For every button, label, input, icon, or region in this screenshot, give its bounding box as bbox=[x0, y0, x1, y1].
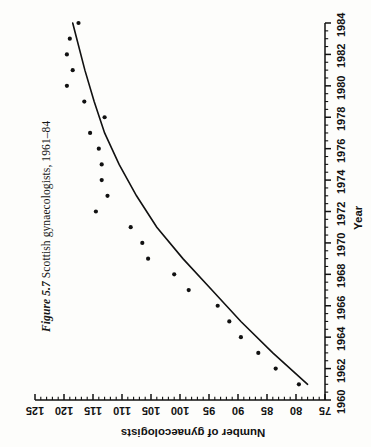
x-tick-label-1984: 1984 bbox=[335, 13, 347, 37]
y-tick-label-90: 90 bbox=[225, 405, 251, 417]
data-point bbox=[88, 131, 92, 135]
data-point bbox=[172, 272, 176, 276]
y-tick-label-125: 125 bbox=[22, 405, 48, 417]
data-point bbox=[105, 194, 109, 198]
data-point bbox=[140, 241, 144, 245]
data-point bbox=[100, 162, 104, 166]
data-point bbox=[227, 319, 231, 323]
data-point bbox=[297, 382, 301, 386]
x-tick-label-1966: 1966 bbox=[335, 295, 347, 319]
x-tick-label-1962: 1962 bbox=[335, 358, 347, 382]
x-tick-label-1972: 1972 bbox=[335, 201, 347, 225]
x-tick-label-1980: 1980 bbox=[335, 75, 347, 99]
data-point bbox=[216, 304, 220, 308]
x-tick-label-1978: 1978 bbox=[335, 107, 347, 131]
x-tick-label-1974: 1974 bbox=[335, 170, 347, 194]
data-point bbox=[256, 351, 260, 355]
x-tick-label-1976: 1976 bbox=[335, 138, 347, 162]
x-axis-label: Year bbox=[352, 206, 364, 230]
y-axis-label: Number of gynaecologists bbox=[108, 427, 278, 439]
x-tick-label-1968: 1968 bbox=[335, 264, 347, 288]
y-tick-label-105: 105 bbox=[138, 405, 164, 417]
data-point bbox=[68, 37, 72, 41]
data-point bbox=[97, 147, 101, 151]
x-tick-label-1960: 1960 bbox=[335, 390, 347, 414]
fitted-curve bbox=[73, 23, 308, 384]
y-tick-label-115: 115 bbox=[80, 405, 106, 417]
data-point bbox=[274, 366, 278, 370]
data-point bbox=[100, 178, 104, 182]
y-tick-label-110: 110 bbox=[109, 405, 135, 417]
data-point bbox=[76, 21, 80, 25]
data-point bbox=[71, 68, 75, 72]
data-point bbox=[65, 84, 69, 88]
data-point bbox=[82, 99, 86, 103]
plot-canvas bbox=[0, 0, 371, 447]
y-tick-label-85: 85 bbox=[254, 405, 280, 417]
y-tick-label-95: 95 bbox=[196, 405, 222, 417]
data-point bbox=[129, 225, 133, 229]
figure-page: Figure 5.7 Scottish gynaecologists, 1961… bbox=[0, 0, 371, 447]
x-tick-label-1970: 1970 bbox=[335, 232, 347, 256]
axis-layer bbox=[35, 23, 331, 400]
data-point bbox=[239, 335, 243, 339]
y-tick-label-120: 120 bbox=[51, 405, 77, 417]
data-point bbox=[146, 257, 150, 261]
x-tick-label-1964: 1964 bbox=[335, 327, 347, 351]
y-tick-label-100: 100 bbox=[167, 405, 193, 417]
y-tick-label-80: 80 bbox=[283, 405, 309, 417]
data-point bbox=[103, 115, 107, 119]
data-point bbox=[94, 209, 98, 213]
x-tick-label-1982: 1982 bbox=[335, 44, 347, 68]
data-point bbox=[187, 288, 191, 292]
data-points-layer bbox=[65, 21, 301, 386]
fitted-curve-layer bbox=[73, 23, 308, 384]
data-point bbox=[65, 52, 69, 56]
